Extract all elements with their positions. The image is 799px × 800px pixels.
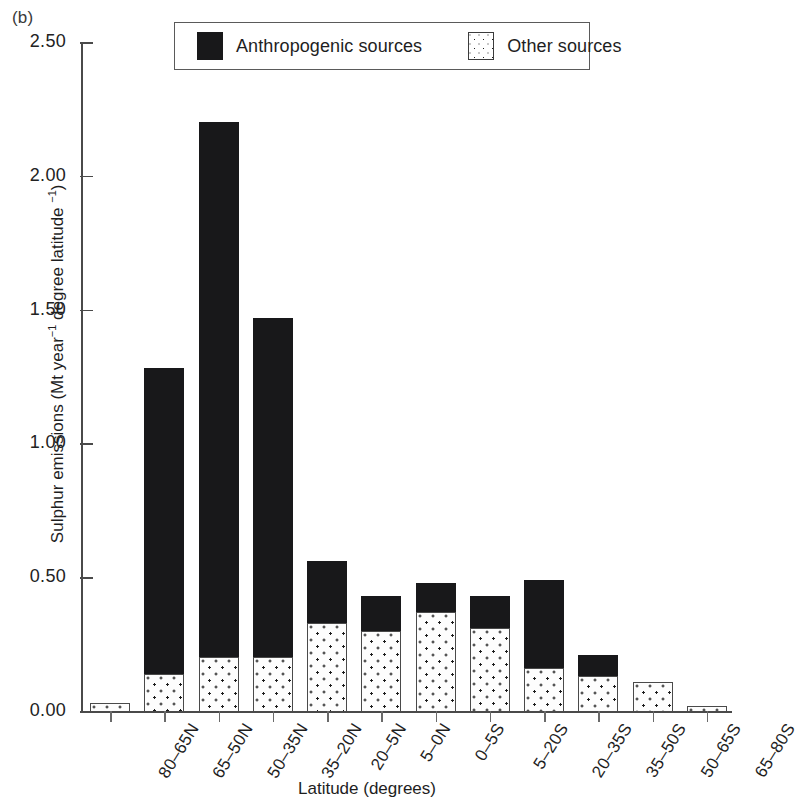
bar-segment-anthropogenic[interactable] — [524, 580, 564, 668]
y-axis-line — [81, 42, 83, 711]
bar-segment-anthropogenic[interactable] — [416, 583, 456, 612]
y-axis-tick-label: 0.00 — [30, 700, 66, 721]
x-axis-tick-label: 80–65N — [155, 720, 204, 782]
bar-group[interactable] — [416, 583, 456, 711]
bar-segment-other[interactable] — [90, 703, 130, 711]
bar-segment-other[interactable] — [524, 668, 564, 711]
y-axis-tick-label: 2.00 — [30, 165, 66, 186]
x-axis-tick — [164, 711, 166, 722]
x-axis-tick — [219, 711, 221, 722]
panel-label: (b) — [12, 8, 33, 28]
bar-segment-other[interactable] — [633, 682, 673, 711]
bar-segment-other[interactable] — [253, 657, 293, 711]
bar-group[interactable] — [253, 318, 293, 711]
x-axis-title: Latitude (degrees) — [0, 779, 734, 799]
x-axis-tick — [381, 711, 383, 722]
y-axis-tick-label: 2.50 — [30, 31, 66, 52]
y-axis-tick-label: 1.00 — [30, 432, 66, 453]
x-axis-tick-label: 20–35S — [588, 720, 637, 781]
y-axis-title-sup-1: −1 — [46, 325, 58, 338]
y-axis-tick: 2.00 — [80, 176, 93, 178]
x-axis-tick — [273, 711, 275, 722]
x-axis-tick-label: 50–35N — [263, 720, 312, 782]
x-axis-line — [81, 711, 732, 713]
x-axis-tick-label: 50–65S — [697, 720, 746, 781]
bar-segment-other[interactable] — [307, 623, 347, 711]
bar-segment-anthropogenic[interactable] — [578, 655, 618, 676]
x-axis-tick — [598, 711, 600, 722]
bar-segment-other[interactable] — [470, 628, 510, 711]
bar-group[interactable] — [144, 368, 184, 711]
plot-area: 0.000.501.001.502.002.50 — [81, 42, 732, 711]
bar-segment-other[interactable] — [199, 657, 239, 711]
bar-segment-other[interactable] — [416, 612, 456, 711]
x-axis-tick — [544, 711, 546, 722]
bar-group[interactable] — [633, 682, 673, 711]
x-axis-tick — [653, 711, 655, 722]
x-axis-tick-label: 0–5S — [471, 720, 509, 765]
y-axis-tick: 0.50 — [80, 577, 93, 579]
bar-segment-anthropogenic[interactable] — [144, 368, 184, 673]
y-axis-tick: 0.00 — [80, 711, 93, 713]
y-axis-tick: 1.00 — [80, 443, 93, 445]
bar-segment-other[interactable] — [578, 676, 618, 711]
x-axis-tick — [110, 711, 112, 722]
x-axis-tick-label: 5–0N — [417, 720, 456, 766]
x-axis-tick-label: 35–20N — [317, 720, 366, 782]
x-axis-tick — [707, 711, 709, 722]
x-axis-tick — [327, 711, 329, 722]
bar-segment-anthropogenic[interactable] — [307, 561, 347, 623]
x-axis-tick-label: 35–50S — [642, 720, 691, 781]
bar-group[interactable] — [307, 561, 347, 711]
bar-group[interactable] — [361, 596, 401, 711]
y-axis-tick: 1.50 — [80, 310, 93, 312]
bar-segment-other[interactable] — [361, 631, 401, 711]
bar-segment-other[interactable] — [144, 674, 184, 711]
y-axis-tick: 2.50 — [80, 42, 93, 44]
x-axis-tick-label: 65–50N — [209, 720, 258, 782]
bar-group[interactable] — [578, 655, 618, 711]
x-axis-tick-label: 65–80S — [751, 720, 799, 781]
bar-group[interactable] — [199, 122, 239, 711]
y-axis-tick-label: 0.50 — [30, 566, 66, 587]
y-axis-tick-label: 1.50 — [30, 299, 66, 320]
x-axis-tick-label: 5–20S — [529, 720, 573, 773]
bar-segment-anthropogenic[interactable] — [253, 318, 293, 658]
bar-group[interactable] — [524, 580, 564, 711]
x-axis-tick-label: 20–5N — [367, 720, 411, 774]
bar-segment-anthropogenic[interactable] — [470, 596, 510, 628]
bar-group[interactable] — [90, 703, 130, 711]
y-axis-title-sup-2: −1 — [46, 190, 58, 203]
bar-group[interactable] — [470, 596, 510, 711]
bar-segment-anthropogenic[interactable] — [361, 596, 401, 631]
bar-segment-anthropogenic[interactable] — [199, 122, 239, 657]
